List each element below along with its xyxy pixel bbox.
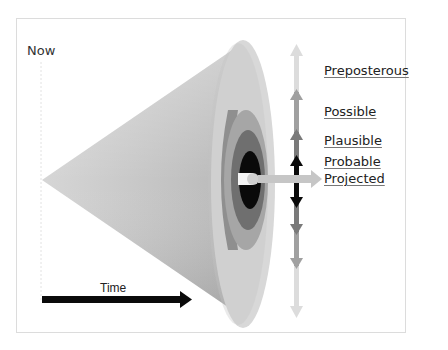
time-label: Time: [100, 282, 126, 294]
label-possible: Possible: [324, 105, 376, 118]
label-projected: Projected: [324, 172, 385, 185]
futures-range-arrow: [288, 44, 312, 318]
label-probable: Probable: [324, 155, 381, 168]
label-preposterous: Preposterous: [324, 64, 409, 77]
label-plausible: Plausible: [324, 134, 382, 147]
now-label: Now: [27, 44, 55, 57]
